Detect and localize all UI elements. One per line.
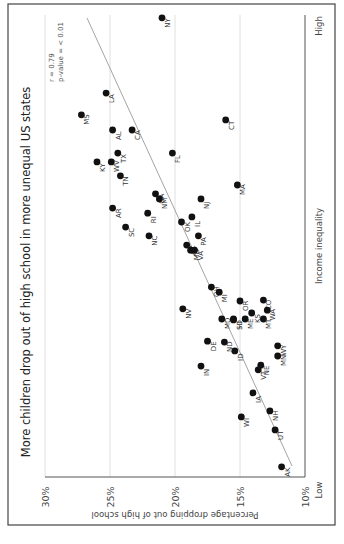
data-point-ri bbox=[144, 210, 151, 217]
state-label: NM bbox=[161, 198, 169, 209]
state-label: AR bbox=[115, 208, 123, 218]
data-point-nj bbox=[198, 196, 205, 203]
state-label: PA bbox=[200, 237, 208, 246]
state-label: WY bbox=[280, 344, 288, 356]
state-label: AL bbox=[115, 131, 123, 140]
state-label: MA bbox=[239, 184, 247, 195]
chart-figure: NYLAMSCTALCATXFLKYWVTNMAGANMNJARRIILOKSC… bbox=[0, 0, 344, 544]
state-label: TN bbox=[122, 176, 130, 187]
p-value-annotation: p-value = < 0.01 bbox=[57, 22, 65, 82]
state-label: CA bbox=[134, 130, 142, 140]
state-label: ID bbox=[237, 353, 245, 360]
data-point-ia bbox=[250, 390, 257, 397]
state-label: WA bbox=[269, 309, 277, 321]
r-value-annotation: r = 0.79 bbox=[48, 53, 56, 82]
state-label: IL bbox=[194, 221, 202, 227]
x-tick-high: High bbox=[314, 16, 324, 36]
state-label: MN bbox=[280, 355, 288, 366]
state-label: IA bbox=[255, 396, 263, 403]
state-label: WI bbox=[243, 418, 251, 427]
x-axis-label: Income inequality bbox=[314, 208, 324, 284]
state-label: MT bbox=[265, 318, 273, 329]
state-label: NC bbox=[151, 236, 159, 246]
y-axis-label: Percentage dropping out of high school bbox=[91, 510, 258, 520]
state-label: KY bbox=[99, 163, 107, 172]
state-label: MI bbox=[221, 294, 229, 302]
state-label: VT bbox=[260, 370, 268, 380]
state-label: OK bbox=[184, 221, 192, 232]
state-label: FL bbox=[174, 155, 182, 163]
data-point-id bbox=[231, 348, 238, 355]
y-tick-label: 30% bbox=[40, 486, 51, 507]
state-label: NH bbox=[272, 410, 280, 421]
state-label: VA bbox=[197, 251, 205, 260]
state-label: NY bbox=[164, 18, 172, 28]
state-label: SD bbox=[236, 320, 244, 330]
state-label: DE bbox=[210, 341, 218, 351]
state-label: ME bbox=[247, 319, 255, 329]
state-label: UT bbox=[277, 430, 285, 440]
data-point-in bbox=[198, 363, 205, 370]
chart-title: More children drop out of high school in… bbox=[19, 87, 33, 457]
y-tick-label: 10% bbox=[300, 486, 311, 507]
state-label: LA bbox=[108, 94, 116, 103]
state-label: RI bbox=[150, 216, 158, 223]
state-label: CT bbox=[228, 120, 236, 130]
state-label: NJ bbox=[203, 202, 211, 209]
state-label: NV bbox=[185, 309, 193, 319]
y-tick-label: 20% bbox=[170, 486, 181, 507]
state-label: OR bbox=[242, 300, 250, 311]
y-tick-label: 25% bbox=[105, 486, 116, 507]
state-label: IN bbox=[203, 369, 211, 376]
scatter-plot: NYLAMSCTALCATXFLKYWVTNMAGANMNJARRIILOKSC… bbox=[0, 0, 344, 544]
data-point-il bbox=[189, 214, 196, 221]
state-label: SC bbox=[128, 228, 136, 237]
x-tick-low: Low bbox=[314, 482, 324, 499]
state-label: MS bbox=[83, 114, 91, 125]
state-label: WV bbox=[113, 160, 121, 172]
y-tick-label: 15% bbox=[235, 486, 246, 507]
state-label: AK bbox=[284, 467, 292, 477]
